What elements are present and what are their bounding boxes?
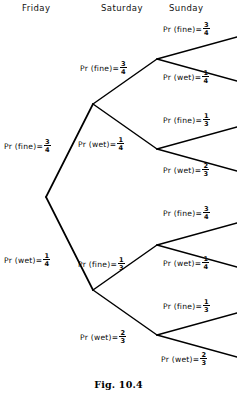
fraction-sunday-2: 14 <box>202 70 209 85</box>
fraction-denominator: 4 <box>120 68 127 75</box>
fraction-denominator: 3 <box>200 359 207 366</box>
figure-caption: Fig. 10.4 <box>0 379 237 390</box>
label-friday-fine: Pr (fine)=34 <box>4 139 51 154</box>
label-saturday-fine-bottom-text: Pr (fine)= <box>78 260 117 269</box>
label-saturday-wet-top: Pr (wet)=14 <box>78 137 124 152</box>
fraction-denominator: 4 <box>203 213 210 220</box>
fraction-saturday-wet-top: 14 <box>117 137 124 152</box>
branch-line-sat-wet-bot <box>93 290 157 335</box>
fraction-sunday-3: 13 <box>203 113 210 128</box>
label-sunday-8-text: Pr (wet)= <box>161 355 199 364</box>
fraction-sunday-8: 23 <box>200 352 207 367</box>
label-sunday-7: Pr (fine)=13 <box>163 299 210 314</box>
label-sunday-6-text: Pr (wet)= <box>163 259 201 268</box>
label-saturday-fine-top-text: Pr (fine)= <box>80 64 119 73</box>
fraction-saturday-wet-bottom: 23 <box>119 330 126 345</box>
fraction-denominator: 4 <box>202 263 209 270</box>
column-header-sunday: Sunday <box>169 3 204 13</box>
fraction-denominator: 3 <box>118 264 125 271</box>
label-sunday-4-text: Pr (wet)= <box>163 166 201 175</box>
label-sunday-4: Pr (wet)=23 <box>163 163 209 178</box>
fraction-denominator: 3 <box>203 306 210 313</box>
branch-line-friday-wet <box>46 197 93 290</box>
label-saturday-wet-bottom-text: Pr (wet)= <box>80 333 118 342</box>
branch-line-sunday-5 <box>157 223 237 245</box>
fraction-denominator: 3 <box>202 170 209 177</box>
fraction-denominator: 4 <box>202 77 209 84</box>
label-saturday-fine-bottom: Pr (fine)=13 <box>78 257 125 272</box>
label-sunday-8: Pr (wet)=23 <box>161 352 207 367</box>
fraction-sunday-1: 34 <box>203 22 210 37</box>
fraction-friday-wet: 14 <box>43 253 50 268</box>
label-sunday-6: Pr (wet)=14 <box>163 256 209 271</box>
fraction-denominator: 4 <box>43 260 50 267</box>
label-sunday-5-text: Pr (fine)= <box>163 209 202 218</box>
column-header-saturday: Saturday <box>101 3 143 13</box>
fraction-denominator: 4 <box>44 146 51 153</box>
label-sunday-3: Pr (fine)=13 <box>163 113 210 128</box>
label-friday-fine-text: Pr (fine)= <box>4 142 43 151</box>
label-sunday-2-text: Pr (wet)= <box>163 73 201 82</box>
fraction-denominator: 4 <box>203 29 210 36</box>
fraction-friday-fine: 34 <box>44 139 51 154</box>
column-header-friday: Friday <box>22 3 50 13</box>
label-sunday-3-text: Pr (fine)= <box>163 116 202 125</box>
label-sunday-1: Pr (fine)=34 <box>163 22 210 37</box>
fraction-sunday-5: 34 <box>203 206 210 221</box>
fraction-denominator: 3 <box>203 120 210 127</box>
fraction-sunday-6: 14 <box>202 256 209 271</box>
label-sunday-7-text: Pr (fine)= <box>163 302 202 311</box>
fraction-sunday-7: 13 <box>203 299 210 314</box>
branch-line-sunday-3 <box>157 127 237 149</box>
label-friday-wet-text: Pr (wet)= <box>4 256 42 265</box>
label-sunday-5: Pr (fine)=34 <box>163 206 210 221</box>
probability-tree-figure: Friday Saturday Sunday Pr (fine)=34 Pr (… <box>0 0 237 395</box>
fraction-denominator: 3 <box>119 337 126 344</box>
label-saturday-wet-bottom: Pr (wet)=23 <box>80 330 126 345</box>
branch-line-sunday-7 <box>157 313 237 335</box>
label-saturday-fine-top: Pr (fine)=34 <box>80 61 127 76</box>
branch-line-sunday-1 <box>157 37 237 59</box>
fraction-sunday-4: 23 <box>202 163 209 178</box>
fraction-denominator: 4 <box>117 144 124 151</box>
label-saturday-wet-top-text: Pr (wet)= <box>78 140 116 149</box>
label-sunday-1-text: Pr (fine)= <box>163 25 202 34</box>
label-friday-wet: Pr (wet)=14 <box>4 253 50 268</box>
fraction-saturday-fine-top: 34 <box>120 61 127 76</box>
label-sunday-2: Pr (wet)=14 <box>163 70 209 85</box>
fraction-saturday-fine-bottom: 13 <box>118 257 125 272</box>
